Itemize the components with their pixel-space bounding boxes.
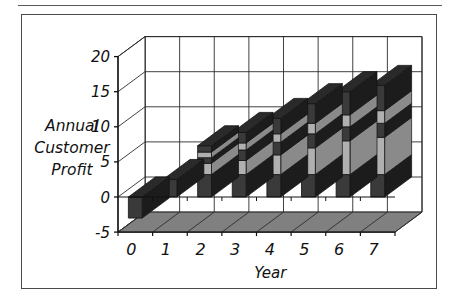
chart-page: -505101520AnnualCustomerProfit01234567Ye… bbox=[0, 0, 459, 303]
y-tick-label: -5 bbox=[95, 224, 110, 242]
y-tick-label: 15 bbox=[91, 83, 110, 101]
y-axis-title-line: Annual bbox=[44, 117, 100, 135]
x-tick-label: 1 bbox=[161, 240, 171, 259]
bar-segment-front bbox=[198, 152, 212, 158]
x-tick-label: 5 bbox=[299, 240, 309, 259]
y-tick-label: 0 bbox=[100, 189, 110, 207]
x-tick-label: 3 bbox=[230, 240, 240, 259]
bar-segment-front bbox=[198, 146, 212, 152]
chart-canvas: -505101520AnnualCustomerProfit01234567Ye… bbox=[0, 0, 459, 303]
y-tick-label: 20 bbox=[91, 48, 110, 66]
x-tick-label: 6 bbox=[334, 240, 344, 259]
x-axis-title: Year bbox=[254, 264, 287, 282]
x-tick-label: 0 bbox=[126, 240, 136, 259]
y-axis-title-line: Profit bbox=[51, 161, 93, 179]
x-tick-label: 7 bbox=[369, 240, 380, 259]
bar-segment-front bbox=[128, 197, 142, 218]
y-axis-title-line: Customer bbox=[34, 139, 111, 157]
x-tick-label: 4 bbox=[265, 240, 275, 259]
x-tick-label: 2 bbox=[195, 240, 205, 259]
